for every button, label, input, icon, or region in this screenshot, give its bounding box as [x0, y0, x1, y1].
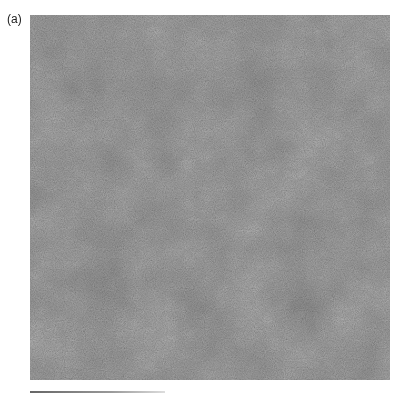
bottom-strip	[30, 391, 165, 393]
panel-label: (a)	[7, 12, 22, 26]
texture-image	[30, 15, 390, 380]
